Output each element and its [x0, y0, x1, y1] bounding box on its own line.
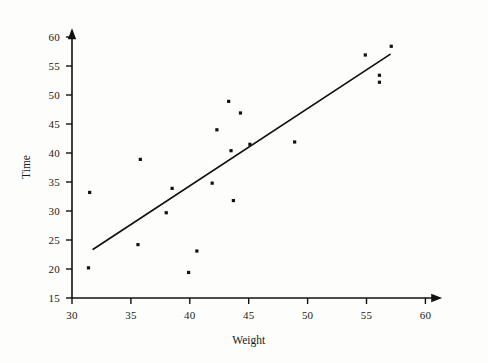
y-tick-label: 60: [36, 31, 60, 43]
regression-line: [93, 54, 390, 249]
axes: [68, 28, 442, 302]
data-point-marker: [195, 249, 198, 252]
data-point-marker: [293, 140, 296, 143]
x-tick-label: 45: [243, 309, 254, 321]
data-point-marker: [139, 158, 142, 161]
regression-line-path: [93, 54, 390, 249]
x-tick-label: 50: [302, 309, 313, 321]
x-tick-label: 30: [66, 309, 77, 321]
data-point-marker: [165, 211, 168, 214]
data-point-marker: [136, 243, 139, 246]
data-point-marker: [171, 187, 174, 190]
scatter-plot-figure: 1520253035404550556030354045505560 Time …: [0, 0, 488, 363]
data-point-marker: [248, 143, 251, 146]
y-tick-label: 45: [36, 118, 60, 130]
x-tick-label: 35: [125, 309, 136, 321]
y-tick-label: 20: [36, 263, 60, 275]
x-tick-label: 55: [361, 309, 372, 321]
data-point-marker: [87, 266, 90, 269]
x-tick-label: 60: [420, 309, 431, 321]
data-point-marker: [378, 74, 381, 77]
data-point-marker: [364, 53, 367, 56]
data-point-marker: [239, 111, 242, 114]
data-point-marker: [215, 128, 218, 131]
data-point-marker: [229, 149, 232, 152]
data-point-marker: [187, 271, 190, 274]
y-tick-label: 15: [36, 292, 60, 304]
y-tick-label: 35: [36, 176, 60, 188]
data-point-marker: [378, 81, 381, 84]
y-tick-label: 55: [36, 60, 60, 72]
y-axis-title: Time: [20, 155, 32, 179]
x-axis-arrow-icon: [431, 294, 442, 302]
data-point-marker: [390, 45, 393, 48]
data-points: [87, 45, 393, 274]
data-point-marker: [211, 182, 214, 185]
data-point-marker: [227, 100, 230, 103]
y-tick-label: 40: [36, 147, 60, 159]
axis-ticks: [66, 37, 425, 304]
y-tick-label: 25: [36, 234, 60, 246]
y-tick-label: 30: [36, 205, 60, 217]
y-tick-label: 50: [36, 89, 60, 101]
data-point-marker: [88, 191, 91, 194]
x-tick-label: 40: [184, 309, 195, 321]
data-point-marker: [232, 199, 235, 202]
x-axis-title: Weight: [232, 334, 265, 346]
